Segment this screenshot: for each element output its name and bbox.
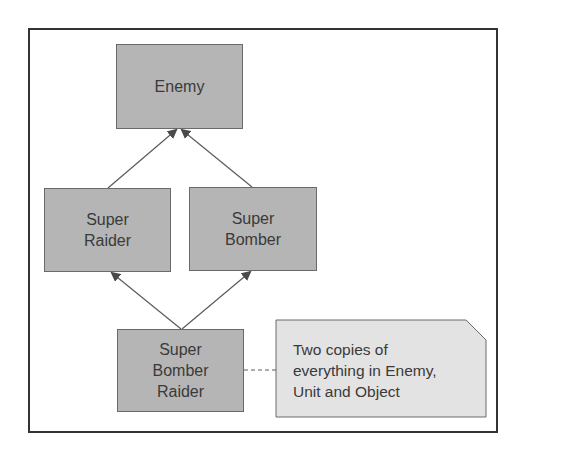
arrow-super-raider-to-enemy [108,130,176,188]
node-enemy: Enemy [116,44,243,129]
node-super-bomber-raider: Super Bomber Raider [117,329,244,412]
note-text: Two copies of everything in Enemy, Unit … [293,339,483,402]
arrow-super-bomber-raider-to-super-raider [112,273,181,329]
node-label: Enemy [155,76,205,97]
node-super-raider: Super Raider [44,188,171,272]
node-label: Super Bomber [225,208,281,250]
arrow-super-bomber-to-enemy [182,130,252,187]
arrow-super-bomber-raider-to-super-bomber [182,272,250,329]
node-label: Super Bomber Raider [152,339,208,402]
node-super-bomber: Super Bomber [189,187,317,271]
node-label: Super Raider [84,209,131,251]
